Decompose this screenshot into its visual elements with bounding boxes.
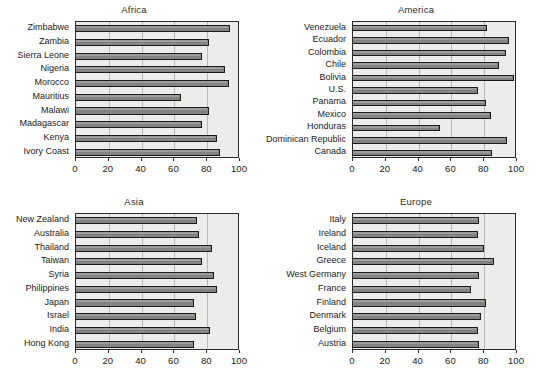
tick-label: 100 — [231, 163, 247, 174]
category-label: India — [49, 325, 69, 334]
tick-label: 80 — [478, 355, 489, 366]
tick-mark — [206, 158, 207, 161]
category-label: Philippines — [25, 284, 69, 293]
category-label: Hong Kong — [24, 339, 69, 348]
panel-title-america: America — [282, 4, 536, 15]
category-label: Japan — [44, 298, 69, 307]
bar — [76, 313, 196, 320]
category-axis-europe: ItalyIrelandIcelandGreeceWest GermanyFra… — [268, 213, 349, 350]
plot-area-america — [352, 21, 516, 158]
tick-label: 40 — [412, 163, 423, 174]
tick-label: 20 — [380, 355, 391, 366]
bar — [353, 37, 509, 43]
bar — [76, 135, 217, 142]
panel-title-africa: Africa — [0, 4, 268, 15]
tick-mark — [239, 158, 240, 161]
category-label: Ecuador — [312, 35, 346, 44]
category-label: Israel — [47, 311, 69, 320]
bar — [76, 217, 197, 224]
bar — [353, 217, 479, 224]
bar — [353, 313, 481, 320]
category-label: Denmark — [309, 311, 346, 320]
tick-mark — [108, 350, 109, 353]
bar — [76, 258, 202, 265]
clipped-caption — [6, 375, 276, 384]
category-label: Canada — [314, 147, 346, 156]
category-label: Finland — [316, 298, 346, 307]
tick-mark — [352, 350, 353, 353]
bar — [353, 87, 478, 93]
bar — [76, 53, 202, 60]
bars-asia — [76, 214, 238, 349]
panel-title-europe: Europe — [282, 196, 536, 207]
tick-mark — [75, 158, 76, 161]
panel-asia: Asia New ZealandAustraliaThailandTaiwanS… — [0, 192, 268, 384]
category-label: Madagascar — [19, 119, 69, 128]
tick-label: 20 — [103, 355, 114, 366]
bar — [76, 272, 214, 279]
bars-europe — [353, 214, 515, 349]
tick-label: 20 — [103, 163, 114, 174]
bar — [353, 272, 479, 279]
tick-mark — [108, 158, 109, 161]
category-label: Italy — [329, 215, 346, 224]
bar — [353, 25, 487, 31]
bar — [76, 107, 209, 114]
tick-mark — [239, 350, 240, 353]
category-label: Iceland — [317, 243, 346, 252]
plot-area-africa — [75, 21, 239, 158]
tick-mark — [385, 350, 386, 353]
plot-area-europe — [352, 213, 516, 350]
bar — [353, 245, 484, 252]
bar — [353, 231, 478, 238]
bar — [353, 258, 494, 265]
bar — [353, 137, 507, 143]
bar — [76, 286, 217, 293]
tick-mark — [385, 158, 386, 161]
bar — [353, 75, 514, 81]
category-label: Malawi — [41, 106, 69, 115]
bar — [76, 25, 230, 32]
category-label: Belgium — [313, 325, 346, 334]
tick-label: 40 — [135, 355, 146, 366]
bar — [76, 121, 202, 128]
category-label: U.S. — [328, 85, 346, 94]
bar — [76, 39, 209, 46]
tick-mark — [206, 350, 207, 353]
tick-label: 0 — [349, 163, 354, 174]
bar — [76, 66, 225, 73]
category-label: Ireland — [318, 229, 346, 238]
tick-label: 40 — [135, 163, 146, 174]
panel-europe: Europe ItalyIrelandIcelandGreeceWest Ger… — [268, 192, 536, 384]
category-axis-america: VenezuelaEcuadorColombiaChileBoliviaU.S.… — [268, 21, 349, 158]
tick-label: 0 — [72, 355, 77, 366]
tick-mark — [483, 158, 484, 161]
bar — [353, 100, 486, 106]
bar — [76, 341, 194, 348]
category-label: France — [318, 284, 346, 293]
bars-africa — [76, 22, 238, 157]
tick-label: 80 — [201, 163, 212, 174]
bar — [76, 245, 212, 252]
tick-label: 40 — [412, 355, 423, 366]
bar — [353, 50, 506, 56]
tick-mark — [141, 350, 142, 353]
category-label: Sierra Leone — [17, 51, 69, 60]
category-label: Thailand — [34, 243, 69, 252]
category-label: Australia — [34, 229, 69, 238]
bar — [353, 327, 478, 334]
category-label: Panama — [312, 97, 346, 106]
tick-mark — [173, 350, 174, 353]
category-label: Austria — [318, 339, 346, 348]
category-label: Nigeria — [40, 64, 69, 73]
bar — [76, 94, 181, 101]
category-label: Morocco — [34, 78, 69, 87]
tick-mark — [450, 158, 451, 161]
category-label: Zambia — [39, 37, 69, 46]
category-label: Mexico — [317, 110, 346, 119]
category-label: Mauritius — [32, 92, 69, 101]
tick-mark — [418, 350, 419, 353]
category-label: Dominican Republic — [266, 135, 346, 144]
category-label: Chile — [325, 60, 346, 69]
tick-mark — [352, 158, 353, 161]
